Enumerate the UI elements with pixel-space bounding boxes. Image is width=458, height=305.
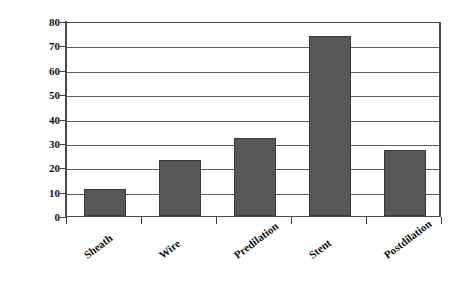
x-axis-tick-mark	[216, 217, 217, 224]
bar[interactable]	[234, 138, 276, 216]
bar-group	[67, 23, 439, 216]
x-axis-tick-mark	[366, 217, 367, 224]
bar[interactable]	[159, 160, 201, 216]
y-axis-tick-label: 20	[30, 163, 60, 174]
x-axis-tick-mark	[141, 217, 142, 224]
y-axis-tick-label: 50	[30, 90, 60, 101]
y-axis-tick-label: 40	[30, 114, 60, 125]
plot-area	[66, 22, 441, 217]
y-axis-tick-label: 10	[30, 187, 60, 198]
y-axis-tick-label: 0	[30, 212, 60, 223]
x-axis-tick-label: Stent	[307, 237, 333, 261]
x-axis-tick-label: Wire	[157, 238, 182, 261]
y-axis-tick-label-group: 01020304050607080	[30, 22, 60, 217]
x-axis-tick-mark	[441, 217, 442, 224]
bar[interactable]	[384, 150, 426, 216]
x-axis-tick-label: Sheath	[82, 232, 115, 260]
y-axis-tick-label: 60	[30, 65, 60, 76]
y-axis-tick-label: 70	[30, 41, 60, 52]
bar-chart: Mean Embolic Count 01020304050607080 She…	[0, 0, 458, 305]
x-axis-tick-mark	[291, 217, 292, 224]
x-axis-tick-label: Postdilation	[382, 218, 434, 261]
x-axis-tick-label: Predilation	[232, 220, 280, 260]
y-axis-tick-label: 80	[30, 17, 60, 28]
bar[interactable]	[309, 36, 351, 216]
y-axis-tick-label: 30	[30, 138, 60, 149]
x-axis-tick-mark	[66, 217, 67, 224]
bar[interactable]	[84, 189, 126, 216]
